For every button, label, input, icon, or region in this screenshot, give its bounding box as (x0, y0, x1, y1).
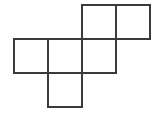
diagram-canvas (0, 0, 159, 116)
cube-net-figure (0, 0, 159, 116)
square-top-right (116, 5, 150, 39)
net-squares-group (14, 5, 150, 107)
square-middle-center (48, 39, 82, 73)
square-middle-left (14, 39, 48, 73)
square-top-left (82, 5, 116, 39)
square-middle-right (82, 39, 116, 73)
square-bottom (48, 73, 82, 107)
